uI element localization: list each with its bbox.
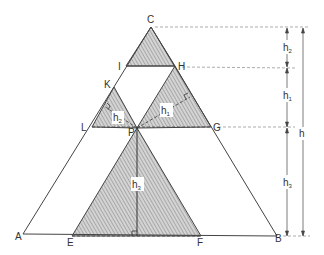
label-f: F (197, 237, 203, 248)
shaded-triangle-top (126, 27, 175, 66)
geometry-diagram: C I H K L P G A E F B h1 h2 h3 h2 h1 h3 … (0, 0, 324, 255)
label-c: C (147, 14, 154, 25)
label-p: P (128, 127, 135, 138)
label-h: H (178, 61, 185, 72)
label-e: E (67, 237, 74, 248)
label-g: G (213, 122, 221, 133)
label-k: K (104, 79, 111, 90)
label-l: L (81, 122, 87, 133)
label-b: B (275, 233, 282, 244)
extension-line-h (182, 67, 295, 68)
label-a: A (15, 231, 22, 242)
shaded-triangle-right (137, 66, 211, 128)
dim-label-h: h (299, 128, 305, 139)
label-i: I (118, 61, 121, 72)
